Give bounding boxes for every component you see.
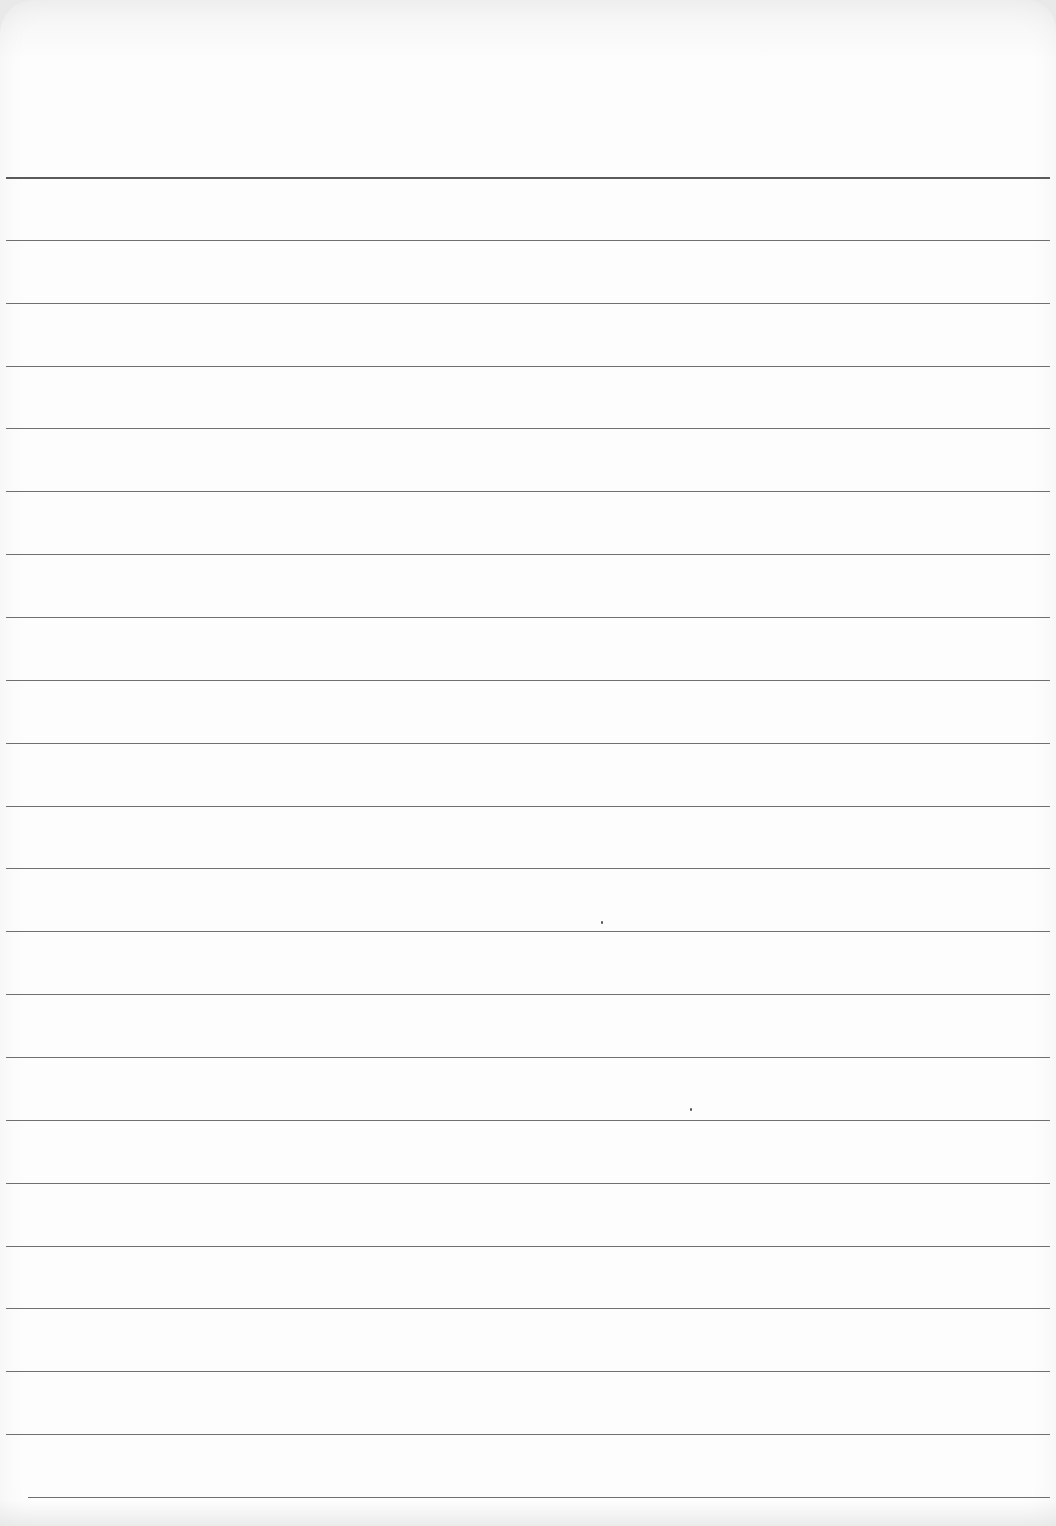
ruled-line — [6, 428, 1050, 429]
ruled-line — [6, 1308, 1050, 1309]
ruled-line — [6, 617, 1050, 618]
ruled-line — [6, 1246, 1050, 1247]
ruled-line — [28, 1497, 1050, 1498]
bottom-edge-shadow — [0, 1500, 1056, 1526]
ruled-line — [6, 554, 1050, 555]
top-margin-area — [0, 0, 1056, 60]
ruled-line — [6, 743, 1050, 744]
paper-speck — [601, 921, 603, 924]
ruled-line — [6, 994, 1050, 995]
ruled-line — [6, 1183, 1050, 1184]
ruled-line — [6, 366, 1050, 367]
ruled-line — [6, 931, 1050, 932]
ruled-line — [6, 491, 1050, 492]
ruled-line — [6, 868, 1050, 869]
ruled-line — [6, 806, 1050, 807]
ruled-line — [6, 177, 1050, 179]
paper-speck — [690, 1108, 692, 1111]
ruled-line — [6, 1057, 1050, 1058]
ruled-line — [6, 680, 1050, 681]
ruled-line — [6, 303, 1050, 304]
ruled-line — [6, 1371, 1050, 1372]
ruled-line — [6, 1120, 1050, 1121]
ruled-line — [6, 240, 1050, 241]
ruled-paper-sheet — [0, 0, 1056, 1526]
ruled-line — [6, 1434, 1050, 1435]
